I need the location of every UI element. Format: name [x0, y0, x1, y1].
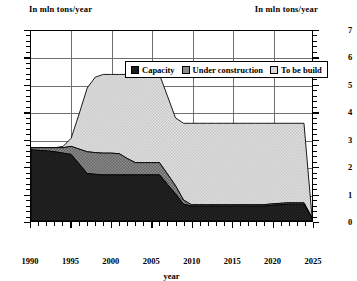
y-tick-0.8: [26, 200, 30, 201]
y-tick-4.0: [24, 112, 30, 113]
y-tick-4.4: [26, 101, 30, 102]
y-tick-right-4.8: [313, 90, 317, 91]
y-tick-right-3.0: [313, 140, 319, 141]
y-tick-1.6: [26, 178, 30, 179]
x-tick-label-2005: 2005: [143, 256, 160, 266]
legend-label-2: To be build: [281, 65, 322, 75]
x-tick-label-2020: 2020: [264, 256, 281, 266]
y-tick-3.4: [26, 129, 30, 130]
x-tick-2009: [184, 222, 185, 226]
y-tick-label-r-4: 4: [348, 107, 357, 117]
y-tick-right-3.4: [313, 129, 317, 130]
x-tick-2022: [289, 222, 290, 226]
y-tick-right-6.2: [313, 52, 317, 53]
y-tick-1.2: [26, 189, 30, 190]
legend-item-to-be-build: To be build: [270, 65, 322, 75]
y-tick-right-6.8: [313, 35, 317, 36]
x-tick-2020: [273, 222, 274, 228]
chart-legend: CapacityUnder constructionTo be build: [125, 61, 328, 78]
legend-item-capacity: Capacity: [131, 65, 175, 75]
y-tick-3.8: [26, 118, 30, 119]
legend-swatch-0: [131, 66, 139, 74]
x-tick-label-1995: 1995: [62, 256, 79, 266]
y-tick-5.0: [24, 85, 30, 86]
y-tick-label-r-3: 3: [348, 135, 357, 145]
y-tick-right-0.4: [313, 211, 317, 212]
y-tick-4.6: [26, 96, 30, 97]
y-tick-right-5.2: [313, 79, 317, 80]
y-tick-label-r-2: 2: [348, 162, 357, 172]
y-tick-right-0.8: [313, 200, 317, 201]
x-tick-1996: [79, 222, 80, 226]
y-tick-5.2: [26, 79, 30, 80]
x-tick-2018: [256, 222, 257, 226]
x-tick-2010: [192, 222, 193, 228]
y-tick-1.8: [26, 173, 30, 174]
x-tick-2001: [119, 222, 120, 226]
y-tick-6.6: [26, 41, 30, 42]
x-tick-1997: [87, 222, 88, 226]
y-tick-6.4: [26, 46, 30, 47]
y-tick-5.6: [26, 68, 30, 69]
x-tick-1994: [62, 222, 63, 226]
x-tick-2013: [216, 222, 217, 226]
y-tick-label-r-1: 1: [348, 190, 357, 200]
y-tick-right-6.0: [313, 57, 319, 58]
x-tick-2002: [127, 222, 128, 226]
legend-swatch-1: [182, 66, 190, 74]
y-tick-right-4.6: [313, 96, 317, 97]
x-axis-title: year: [30, 271, 313, 281]
y-tick-6.0: [24, 57, 30, 58]
x-tick-1990: [30, 222, 31, 228]
legend-label-0: Capacity: [142, 65, 175, 75]
y-tick-right-5.0: [313, 85, 319, 86]
y-tick-right-2.6: [313, 151, 317, 152]
y-tick-0.2: [26, 217, 30, 218]
y-tick-right-1.8: [313, 173, 317, 174]
y-tick-label-r-6: 6: [348, 52, 357, 62]
x-tick-2014: [224, 222, 225, 226]
y-tick-right-1.0: [313, 195, 319, 196]
y-tick-right-1.6: [313, 178, 317, 179]
x-tick-label-1990: 1990: [22, 256, 39, 266]
y-tick-1.4: [26, 184, 30, 185]
y-tick-right-6.6: [313, 41, 317, 42]
y-tick-label-r-0: 0: [348, 217, 357, 227]
y-tick-right-1.2: [313, 189, 317, 190]
y-tick-5.4: [26, 74, 30, 75]
y-tick-2.8: [26, 145, 30, 146]
y-tick-right-4.0: [313, 112, 319, 113]
y-tick-1.0: [24, 195, 30, 196]
y-tick-4.8: [26, 90, 30, 91]
y-tick-3.2: [26, 134, 30, 135]
x-tick-2006: [159, 222, 160, 226]
x-tick-label-2025: 2025: [305, 256, 322, 266]
x-tick-label-2000: 2000: [102, 256, 119, 266]
y-tick-6.8: [26, 35, 30, 36]
x-tick-1995: [70, 222, 71, 228]
x-tick-2005: [151, 222, 152, 228]
x-tick-2021: [281, 222, 282, 226]
x-tick-2008: [176, 222, 177, 226]
x-tick-2015: [232, 222, 233, 228]
x-tick-2023: [297, 222, 298, 226]
x-tick-2012: [208, 222, 209, 226]
y-tick-2.4: [26, 156, 30, 157]
y-tick-2.6: [26, 151, 30, 152]
y-tick-right-2.8: [313, 145, 317, 146]
x-tick-2019: [264, 222, 265, 226]
y-tick-right-0.2: [313, 217, 317, 218]
y-tick-right-0.6: [313, 206, 317, 207]
y-tick-6.2: [26, 52, 30, 53]
y-tick-0.6: [26, 206, 30, 207]
y-tick-right-3.8: [313, 118, 317, 119]
x-tick-1998: [95, 222, 96, 226]
y-tick-right-1.4: [313, 184, 317, 185]
y-axis-unit-label-left: In mln tons/year: [29, 4, 92, 14]
y-tick-4.2: [26, 107, 30, 108]
x-tick-2016: [240, 222, 241, 226]
x-tick-2024: [305, 222, 306, 226]
x-tick-label-2010: 2010: [183, 256, 200, 266]
x-tick-2003: [135, 222, 136, 226]
y-tick-3.6: [26, 123, 30, 124]
